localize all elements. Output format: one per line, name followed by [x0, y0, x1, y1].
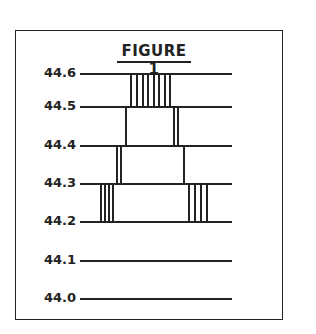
level-label-44-2: 44.2 [36, 213, 76, 228]
level-line-44-0 [80, 298, 232, 300]
level-label-44-4: 44.4 [36, 137, 76, 152]
level-label-44-5: 44.5 [36, 98, 76, 113]
level-line-44-3 [80, 183, 232, 185]
level-label-44-6: 44.6 [36, 65, 76, 80]
level-line-44-5 [80, 106, 232, 108]
level-label-44-0: 44.0 [36, 290, 76, 305]
level-line-44-6 [80, 73, 232, 75]
level-line-44-2 [80, 221, 232, 223]
level-label-44-3: 44.3 [36, 175, 76, 190]
level-line-44-4 [80, 145, 232, 147]
title-underline [117, 61, 191, 63]
level-label-44-1: 44.1 [36, 252, 76, 267]
level-line-44-1 [80, 260, 232, 262]
